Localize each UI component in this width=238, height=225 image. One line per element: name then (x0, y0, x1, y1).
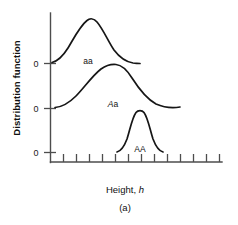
figure-panel-a: 0 0 0 aa Aa AA Distrib (0, 0, 238, 225)
x-axis-title-main: Height, (106, 184, 136, 195)
curve-label-AA: AA (134, 144, 146, 154)
distribution-plot: 0 0 0 aa Aa AA Distrib (0, 0, 238, 225)
x-axis-ticks (64, 154, 220, 162)
y-tick-label-0-middle: 0 (33, 104, 38, 114)
curve-aa (52, 19, 140, 64)
curve-label-Aa-lower: a (113, 99, 118, 109)
y-axis-title: Distribution function (11, 40, 22, 136)
y-tick-label-0-bottom: 0 (33, 148, 38, 158)
y-tick-label-0-top: 0 (33, 59, 38, 69)
x-axis-title-variable: h (139, 184, 144, 195)
panel-label: (a) (119, 202, 131, 213)
curve-label-aa: aa (83, 56, 93, 66)
curve-label-Aa: Aa (107, 99, 119, 109)
x-axis-title: Height, h (106, 184, 144, 195)
